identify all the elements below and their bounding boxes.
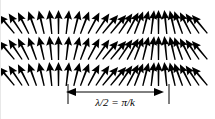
spin-arrow-row bbox=[1, 62, 215, 86]
measurement-arrowhead-right bbox=[154, 88, 164, 96]
spin-wave-figure: λ/2 = π/k bbox=[0, 0, 215, 119]
half-wavelength-label: λ/2 = π/k bbox=[1, 96, 215, 108]
spin-arrow-row bbox=[1, 36, 215, 60]
measurement-arrowhead-left bbox=[66, 88, 76, 96]
spin-arrow-row bbox=[1, 10, 215, 34]
